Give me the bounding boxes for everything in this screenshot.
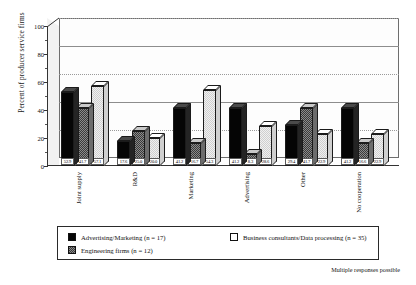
y-tick-mark-40 — [44, 110, 48, 111]
bar-value-label: 52.9 — [61, 158, 74, 165]
legend-swatch-business-consultants — [230, 233, 238, 241]
bar: 41.2 — [341, 108, 354, 166]
bar-side-face — [384, 129, 389, 166]
bar-value-label: 41.2 — [229, 158, 242, 165]
category-label: Marketing — [187, 172, 194, 199]
bar-group: 41.216.622.9 — [341, 26, 390, 166]
y-axis-title: Percent of producer service firms — [17, 0, 26, 128]
bar-group: 52.941.757.1 — [61, 26, 110, 166]
legend-swatch-engineering-firms — [68, 246, 76, 254]
bar-side-face — [272, 121, 277, 166]
bar-side-face — [89, 103, 94, 166]
bar-value-label: 41.2 — [173, 158, 186, 165]
y-minor-tick — [45, 68, 47, 69]
bar-side-face — [242, 103, 247, 166]
legend-item-0: Advertising/Marketing (n = 17) — [68, 233, 166, 241]
y-minor-tick — [45, 96, 47, 97]
bar-side-face — [186, 103, 191, 166]
bar-value-label: 41.2 — [341, 158, 354, 165]
category-label: Joint supply — [75, 172, 82, 204]
y-tick-mark-100 — [44, 26, 48, 27]
y-tick-mark-80 — [44, 54, 48, 55]
y-minor-tick — [45, 152, 47, 153]
bar-side-face — [216, 85, 221, 166]
category-label: No cooperation — [355, 172, 362, 213]
bar-side-face — [328, 129, 333, 166]
bar-side-face — [354, 103, 359, 166]
bar-front-face — [61, 92, 74, 166]
bar: 17.6 — [117, 141, 130, 166]
bar-side-face — [298, 120, 303, 166]
chart-figure: Percent of producer service firms 020406… — [0, 0, 416, 285]
y-tick-mark-60 — [44, 82, 48, 83]
legend: Advertising/Marketing (n = 17) Engineeri… — [57, 226, 379, 260]
category-label: Advertising — [243, 172, 250, 203]
bar-side-face — [313, 103, 318, 166]
bar-group: 41.216.754.3 — [173, 26, 222, 166]
bar: 29.4 — [285, 125, 298, 166]
bar-group: 41.28.328.6 — [229, 26, 278, 166]
bar-side-face — [145, 126, 150, 166]
bar: 52.9 — [61, 92, 74, 166]
legend-item-1: Engineering firms (n = 12) — [68, 246, 153, 254]
plot-area: 020406080100 52.941.757.117.625.020.041.… — [47, 18, 399, 166]
y-minor-tick — [45, 40, 47, 41]
legend-label-advertising-marketing: Advertising/Marketing (n = 17) — [81, 234, 166, 241]
bar-side-face — [74, 87, 79, 166]
legend-label-business-consultants: Business consultants/Data processing (n … — [243, 234, 367, 241]
bar-group: 17.625.020.0 — [117, 26, 166, 166]
y-minor-tick — [45, 124, 47, 125]
plot-left-wall — [47, 18, 59, 166]
legend-item-2: Business consultants/Data processing (n … — [230, 233, 367, 241]
bar: 41.2 — [173, 108, 186, 166]
legend-swatch-advertising-marketing — [68, 233, 76, 241]
bar-group: 29.441.722.9 — [285, 26, 334, 166]
bar: 41.2 — [229, 108, 242, 166]
footer-note: Multiple responses possible — [331, 266, 400, 273]
y-axis-line — [47, 26, 48, 166]
legend-label-engineering-firms: Engineering firms (n = 12) — [81, 247, 153, 254]
y-tick-mark-0 — [44, 166, 48, 167]
bar-value-label: 17.6 — [117, 158, 130, 165]
bar-side-face — [160, 133, 165, 166]
bar-value-label: 29.4 — [285, 158, 298, 165]
bar-side-face — [104, 81, 109, 166]
category-label: R&D — [131, 172, 138, 186]
y-tick-mark-20 — [44, 138, 48, 139]
gridline-100 — [59, 18, 399, 20]
category-label: Other — [299, 172, 306, 187]
